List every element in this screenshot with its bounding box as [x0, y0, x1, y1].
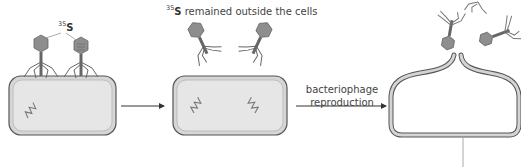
phage-attached-2 — [64, 37, 98, 78]
phage-released-3 — [464, 0, 489, 17]
diagram-canvas — [0, 0, 521, 167]
label-connector — [46, 33, 76, 40]
isotope-label-1: 35S — [58, 22, 73, 33]
phage-attached-1 — [24, 35, 58, 78]
panel-lysis — [391, 0, 521, 167]
panel-infection — [9, 33, 116, 135]
phage-detached-2 — [235, 16, 278, 66]
phage-released-2 — [474, 13, 521, 52]
isotope-label-2: 35S remained outside the cells — [166, 6, 317, 17]
phage-released-1 — [432, 9, 465, 52]
phage-detached-1 — [182, 16, 225, 66]
bacterial-cell-2 — [173, 76, 287, 135]
lysed-cell — [391, 55, 519, 135]
arrow-2-label: bacteriophage reproduction — [302, 83, 382, 109]
bacterial-cell-1 — [9, 76, 116, 135]
panel-after-separation — [173, 16, 287, 135]
